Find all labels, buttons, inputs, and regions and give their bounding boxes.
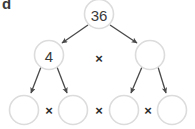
node-level2-right[interactable] <box>136 41 165 70</box>
arrow-right-to-child-4 <box>158 67 166 93</box>
node-level3-2[interactable] <box>59 96 88 125</box>
node-level3-3-circle[interactable] <box>110 96 139 125</box>
node-level2-left-value: 4 <box>45 48 53 65</box>
times-operator-level3-3: × <box>144 103 152 118</box>
node-level3-4-circle[interactable] <box>158 96 187 125</box>
node-root[interactable]: 36 <box>85 0 114 29</box>
node-level3-1[interactable] <box>10 96 39 125</box>
node-level2-left[interactable]: 4 <box>35 41 64 70</box>
node-root-value: 36 <box>91 7 108 24</box>
times-operator-level3-1: × <box>45 103 53 118</box>
arrow-root-to-left-child <box>62 25 88 43</box>
times-operator-level2: × <box>95 51 103 66</box>
factor-tree-figure: d 36 4 × <box>0 0 195 129</box>
node-level3-2-circle[interactable] <box>59 96 88 125</box>
arrow-right-to-child-3 <box>131 67 142 93</box>
times-operator-level3-2: × <box>95 103 103 118</box>
arrow-root-to-right-child <box>110 25 137 43</box>
node-level3-3[interactable] <box>110 96 139 125</box>
factor-tree-canvas: 36 4 × × × × <box>0 0 195 129</box>
node-level3-4[interactable] <box>158 96 187 125</box>
node-level3-1-circle[interactable] <box>10 96 39 125</box>
arrow-left-to-child-1 <box>31 67 41 93</box>
arrow-left-to-child-2 <box>57 67 67 93</box>
node-level2-right-circle[interactable] <box>136 41 165 70</box>
